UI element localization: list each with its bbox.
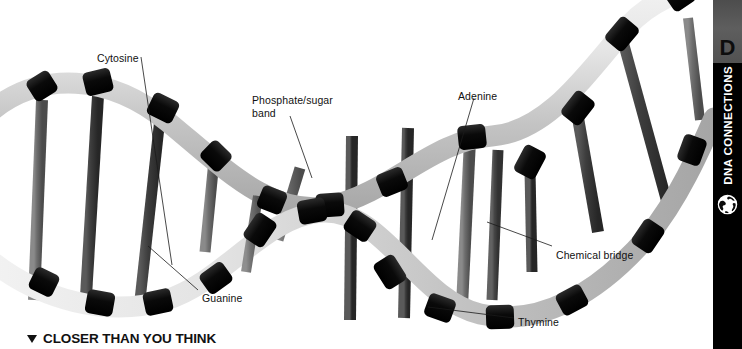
globe-icon: [717, 194, 738, 215]
label-guanine: Guanine: [202, 292, 242, 305]
label-chemical-bridge: Chemical bridge: [556, 249, 633, 262]
sidebar-letter-block: D: [713, 0, 742, 63]
dna-double-helix-figure: [0, 0, 714, 330]
sidebar-section-title: DNA CONNECTIONS: [713, 66, 742, 206]
label-phosphate-sugar-band: Phosphate/sugar band: [252, 94, 333, 119]
sidebar: D DNA CONNECTIONS: [713, 0, 742, 349]
sidebar-section-title-text: DNA CONNECTIONS: [722, 66, 734, 185]
section-caption-text: CLOSER THAN YOU THINK: [43, 331, 216, 346]
label-cytosine: Cytosine: [97, 52, 139, 65]
sidebar-letter: D: [713, 37, 742, 59]
page-root: Cytosine Phosphate/sugar band Adenine Gu…: [0, 0, 742, 349]
triangle-down-icon: [27, 335, 37, 343]
leader-guanine: [148, 246, 198, 290]
section-caption: CLOSER THAN YOU THINK: [27, 331, 216, 346]
label-thymine: Thymine: [518, 316, 559, 329]
label-adenine: Adenine: [458, 90, 497, 103]
